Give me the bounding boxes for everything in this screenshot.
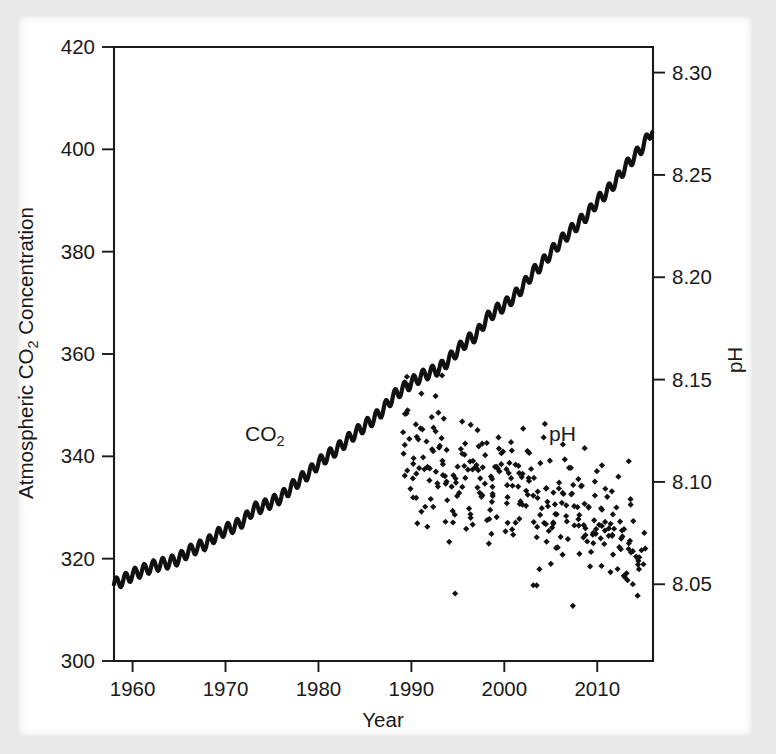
ph-data-point: [404, 468, 410, 474]
y-left-axis-title: Atmospheric CO2 Concentration: [14, 207, 41, 499]
ph-data-point: [534, 534, 540, 540]
ph-data-point: [402, 473, 408, 479]
ph-data-point: [432, 393, 438, 399]
ph-data-point: [550, 490, 556, 496]
ph-data-point: [466, 505, 472, 511]
ph-data-point: [459, 418, 465, 424]
ph-data-point: [626, 458, 632, 464]
ph-data-point: [544, 539, 550, 545]
ph-data-point: [615, 474, 621, 480]
left-tick-label: 320: [61, 547, 95, 570]
ph-data-point: [536, 566, 542, 572]
ph-data-point: [482, 481, 488, 487]
ph-data-point: [570, 603, 576, 609]
ph-data-point: [420, 454, 426, 460]
ph-data-point: [599, 462, 605, 468]
x-tick-label: 1980: [296, 677, 342, 700]
ph-data-point: [449, 484, 455, 490]
x-tick-label: 1960: [110, 677, 156, 700]
ph-data-point: [539, 505, 545, 511]
ph-data-point: [614, 566, 620, 572]
ph-data-point: [428, 496, 434, 502]
y-right-axis-title: pH: [723, 347, 746, 373]
ph-data-point: [609, 488, 615, 494]
ph-data-point: [641, 530, 647, 536]
right-tick-label: 8.05: [672, 572, 712, 595]
x-axis-ticks: 196019701980199020002010: [110, 661, 620, 700]
ph-data-point: [450, 519, 456, 525]
ph-data-point: [452, 590, 458, 596]
ph-data-point: [520, 425, 526, 431]
left-tick-label: 300: [61, 649, 95, 672]
ph-data-point: [410, 475, 416, 481]
left-axis-ticks: 300320340360380400420: [61, 35, 114, 672]
ph-data-point: [613, 504, 619, 510]
ph-data-point: [547, 458, 553, 464]
ph-data-point: [531, 519, 537, 525]
ph-data-point: [541, 434, 547, 440]
left-tick-label: 360: [61, 342, 95, 365]
ph-data-point: [406, 436, 412, 442]
ph-data-point: [495, 434, 501, 440]
ph-data-point: [404, 374, 410, 380]
ph-data-point: [446, 539, 452, 545]
ph-data-point: [489, 484, 495, 490]
ph-data-point: [582, 445, 588, 451]
ph-data-point: [576, 523, 582, 529]
ph-data-point: [509, 447, 515, 453]
right-tick-label: 8.25: [672, 163, 712, 186]
ph-data-point: [548, 561, 554, 567]
ph-data-point: [590, 540, 596, 546]
y-left-axis-title-tail: Concentration: [14, 207, 37, 340]
ph-data-point: [463, 526, 469, 532]
ph-scatter-series: [400, 372, 648, 609]
ph-data-point: [635, 562, 641, 568]
ph-data-point: [630, 581, 636, 587]
ph-data-point: [512, 520, 518, 526]
ph-data-point: [562, 456, 568, 462]
ph-data-point: [494, 514, 500, 520]
co2-line-series: [114, 132, 652, 587]
ph-data-point: [515, 483, 521, 489]
ph-data-point: [598, 535, 604, 541]
ph-data-point: [400, 451, 406, 457]
ph-data-point: [575, 476, 581, 482]
ph-data-point: [418, 390, 424, 396]
ph-data-point: [482, 452, 488, 458]
ph-data-point: [640, 561, 646, 567]
ph-data-point: [430, 504, 436, 510]
ph-data-point: [628, 502, 634, 508]
ph-data-point: [630, 518, 636, 524]
ph-data-point: [504, 482, 510, 488]
ph-data-point: [438, 435, 444, 441]
ph-data-point: [635, 593, 641, 599]
ph-series-annotation: pH: [549, 422, 576, 445]
ph-data-point: [477, 475, 483, 481]
ph-data-point: [488, 531, 494, 537]
ph-data-point: [418, 508, 424, 514]
ph-data-point: [486, 541, 492, 547]
ph-data-point: [442, 519, 448, 525]
chart-figure: 300320340360380400420 8.058.108.158.208.…: [0, 0, 776, 754]
ph-data-point: [429, 414, 435, 420]
ph-data-point: [411, 455, 417, 461]
ph-data-point: [413, 421, 419, 427]
ph-data-point: [611, 526, 617, 532]
co2-annotation-subscript: 2: [277, 433, 285, 449]
ph-data-point: [413, 471, 419, 477]
ph-data-point: [601, 541, 607, 547]
ph-data-point: [543, 485, 549, 491]
right-tick-label: 8.20: [672, 265, 712, 288]
left-tick-label: 380: [61, 240, 95, 263]
ph-data-point: [584, 538, 590, 544]
ph-data-point: [504, 494, 510, 500]
ph-data-point: [400, 429, 406, 435]
co2-ph-chart-svg: 300320340360380400420 8.058.108.158.208.…: [0, 0, 776, 754]
y-left-axis-title-main: Atmospheric CO: [14, 349, 37, 499]
x-tick-label: 1970: [203, 677, 249, 700]
y-left-axis-title-subscript: 2: [25, 340, 41, 348]
left-tick-label: 340: [61, 444, 95, 467]
ph-data-point: [458, 446, 464, 452]
right-tick-label: 8.10: [672, 470, 712, 493]
ph-data-point: [414, 520, 420, 526]
